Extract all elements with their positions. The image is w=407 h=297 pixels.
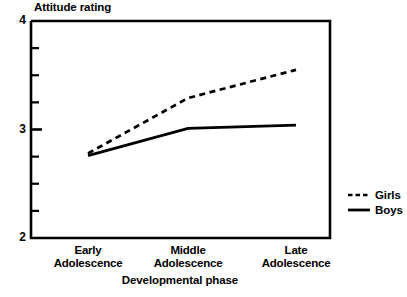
legend-swatch-dashed-icon [348, 190, 370, 200]
legend-label-girls: Girls [375, 189, 401, 201]
x-axis-category-late: Late Adolescence [236, 244, 356, 270]
x-cat-late-line2: Adolescence [236, 257, 356, 270]
legend-swatch-solid-icon [348, 205, 370, 215]
x-axis-title: Developmental phase [0, 274, 360, 286]
chart-legend: Girls Boys [348, 187, 403, 217]
x-axis-category-middle: Middle Adolescence [128, 244, 248, 270]
attitude-rating-line-chart: Attitude rating 4 3 2 Early Adolescence … [0, 0, 407, 297]
x-cat-middle-line2: Adolescence [128, 257, 248, 270]
legend-entry-boys: Boys [348, 202, 403, 217]
legend-entry-girls: Girls [348, 187, 403, 202]
x-cat-middle-line1: Middle [128, 244, 248, 257]
x-cat-late-line1: Late [236, 244, 356, 257]
y-axis-ticks [31, 48, 42, 211]
data-series-layer [88, 70, 296, 156]
series-line-boys [88, 125, 296, 155]
legend-label-boys: Boys [375, 204, 403, 216]
series-line-girls [88, 70, 296, 154]
